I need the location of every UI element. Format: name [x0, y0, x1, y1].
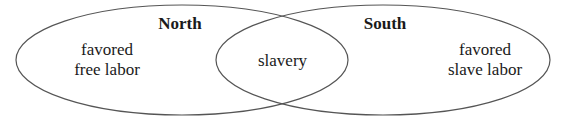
overlap-label: slavery [240, 51, 325, 71]
venn-diagram: North South favored free labor slavery f… [0, 0, 566, 121]
north-unique-line1: favored [52, 40, 162, 60]
north-title: North [150, 14, 210, 34]
south-unique-line2: slave labor [425, 60, 545, 80]
south-unique-line1: favored [425, 40, 545, 60]
north-unique-line2: free labor [52, 60, 162, 80]
south-title: South [355, 14, 415, 34]
